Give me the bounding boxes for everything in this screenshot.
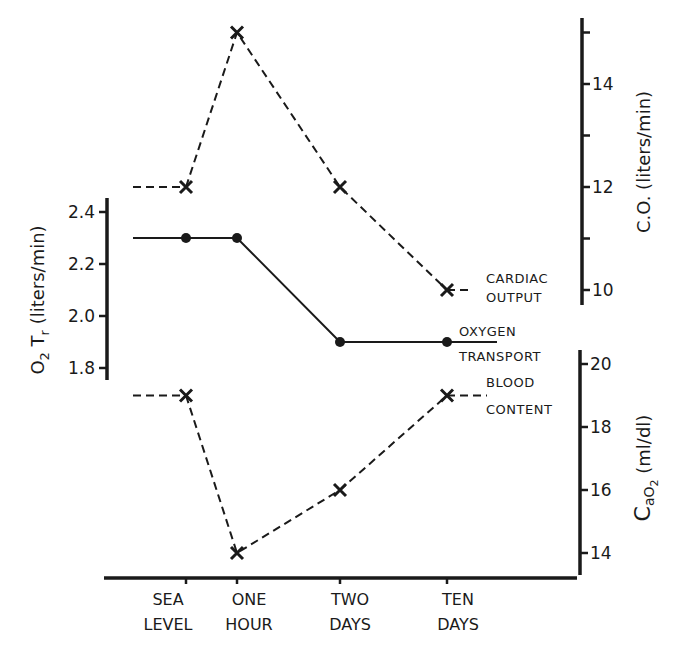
category-label: LEVEL xyxy=(144,615,193,634)
dot-marker xyxy=(181,233,191,243)
axes: 2.42.22.01.814121020181614SEALEVELONEHOU… xyxy=(68,18,614,634)
x-marker xyxy=(334,484,346,496)
tick-label: 14 xyxy=(592,74,614,94)
tick-label: 10 xyxy=(592,280,614,300)
series-group xyxy=(133,27,497,560)
category-label: DAYS xyxy=(329,615,371,634)
right-upper-axis-title: C.O. (liters/min) xyxy=(633,91,654,233)
x-marker xyxy=(180,181,192,193)
dot-marker xyxy=(335,337,345,347)
category-label: ONE xyxy=(232,590,267,609)
tick-label: 2.4 xyxy=(68,202,95,222)
series-label: BLOOD xyxy=(486,375,535,390)
series-cardiac-output xyxy=(133,27,470,297)
tick-label: 16 xyxy=(590,480,612,500)
tick-label: 14 xyxy=(590,543,612,563)
series-label: OUTPUT xyxy=(486,290,542,305)
series-blood-content xyxy=(133,390,487,560)
right-lower-axis-title: CaO2 (ml/dl) xyxy=(630,415,661,522)
tick-label: 1.8 xyxy=(68,358,95,378)
x-marker xyxy=(180,390,192,402)
series-label: OXYGEN xyxy=(459,324,516,339)
chart-canvas: 2.42.22.01.814121020181614SEALEVELONEHOU… xyxy=(0,0,675,645)
series-label: TRANSPORT xyxy=(458,349,541,364)
series-label: CARDIAC xyxy=(486,271,548,286)
x-marker xyxy=(231,27,243,39)
dot-marker xyxy=(232,233,242,243)
category-label: TEN xyxy=(441,590,474,609)
tick-label: 2.0 xyxy=(68,306,95,326)
category-label: TWO xyxy=(330,590,369,609)
category-label: SEA xyxy=(152,590,183,609)
category-label: HOUR xyxy=(225,615,272,634)
labels-group: O2 Tr (liters/min)C.O. (liters/min)CaO2 … xyxy=(27,91,661,521)
tick-label: 20 xyxy=(590,354,612,374)
tick-label: 2.2 xyxy=(68,254,95,274)
dot-marker xyxy=(442,337,452,347)
series-oxygen-transport xyxy=(133,233,497,347)
tick-label: 12 xyxy=(592,177,614,197)
tick-label: 18 xyxy=(590,417,612,437)
x-marker xyxy=(231,547,243,559)
x-marker xyxy=(334,181,346,193)
left-axis-title: O2 Tr (liters/min) xyxy=(27,225,52,374)
series-label: CONTENT xyxy=(486,402,552,417)
category-label: DAYS xyxy=(437,615,479,634)
